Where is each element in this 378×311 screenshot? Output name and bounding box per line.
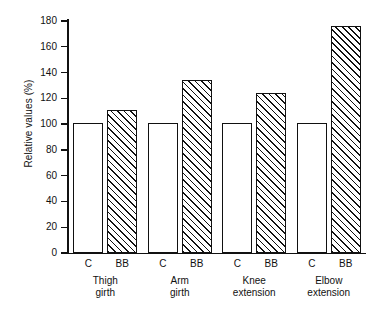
bar-c-group-1: [73, 123, 103, 253]
bar-c-group-4: [297, 123, 327, 253]
y-axis-tick-label: 60: [17, 171, 57, 181]
y-axis-tick: [61, 20, 68, 21]
y-axis-tick-label: 140: [17, 68, 57, 78]
y-axis-tick: [61, 201, 68, 202]
series-label-c: C: [148, 258, 178, 269]
y-axis-tick: [61, 175, 68, 176]
y-axis-tick-label: 120: [17, 93, 57, 103]
y-axis-tick-label: 20: [17, 222, 57, 232]
bar-bb-group-1: [107, 110, 137, 253]
series-label-c: C: [222, 258, 252, 269]
y-axis-tick-label: 80: [17, 145, 57, 155]
series-label-bb: BB: [256, 258, 286, 269]
y-axis-tick-label: 40: [17, 196, 57, 206]
y-axis-tick-label: 0: [17, 248, 57, 258]
y-axis-tick-label: 180: [17, 16, 57, 26]
series-label-bb: BB: [182, 258, 212, 269]
y-axis-tick: [61, 227, 68, 228]
series-label-bb: BB: [331, 258, 361, 269]
x-axis-group-label-line: extension: [284, 287, 374, 299]
y-axis-line: [67, 19, 69, 254]
y-axis-tick-label: 100: [17, 119, 57, 129]
bar-bb-group-3: [256, 93, 286, 253]
y-axis-tick: [61, 72, 68, 73]
bar-bb-group-2: [182, 80, 212, 253]
y-axis-tick: [61, 98, 68, 99]
x-axis-group-label-line: Elbow: [284, 275, 374, 287]
bar-c-group-3: [222, 123, 252, 253]
y-axis-tick: [61, 252, 68, 253]
bar-chart: Relative values (%) 02040608010012014016…: [0, 0, 378, 311]
series-label-c: C: [297, 258, 327, 269]
y-axis-tick: [61, 123, 68, 124]
x-axis-group-label: Elbowextension: [284, 275, 374, 298]
y-axis-tick-label: 160: [17, 42, 57, 52]
bar-c-group-2: [148, 123, 178, 253]
bar-bb-group-4: [331, 26, 361, 253]
y-axis-tick: [61, 46, 68, 47]
series-label-bb: BB: [107, 258, 137, 269]
series-label-c: C: [73, 258, 103, 269]
y-axis-tick: [61, 149, 68, 150]
